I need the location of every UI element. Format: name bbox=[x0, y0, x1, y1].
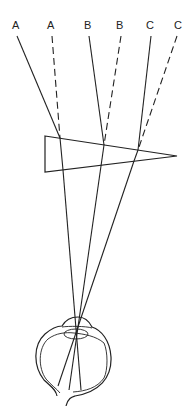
label-b-actual: B bbox=[84, 19, 91, 31]
eye-inner-wall bbox=[40, 333, 107, 393]
prism bbox=[45, 136, 177, 172]
ray-b-actual bbox=[89, 36, 104, 145]
ray-c-actual bbox=[138, 36, 151, 150]
label-b-apparent: B bbox=[116, 19, 123, 31]
label-a-actual: A bbox=[12, 19, 20, 31]
label-c-actual: C bbox=[146, 19, 154, 31]
ray-c-to-eye bbox=[58, 161, 134, 386]
eye-cornea bbox=[62, 326, 92, 328]
ray-c-in-prism bbox=[134, 150, 138, 161]
ray-c-apparent bbox=[138, 36, 177, 150]
ray-a-in-prism bbox=[60, 138, 63, 170]
ray-b-in-prism bbox=[101, 145, 104, 166]
ray-b-to-eye bbox=[69, 166, 101, 390]
label-c-apparent: C bbox=[174, 19, 182, 31]
ray-a-to-eye bbox=[63, 170, 81, 390]
label-a-apparent: A bbox=[47, 19, 55, 31]
prism-eye-diagram: A A B B C C bbox=[0, 0, 191, 406]
ray-b-apparent bbox=[104, 36, 121, 145]
